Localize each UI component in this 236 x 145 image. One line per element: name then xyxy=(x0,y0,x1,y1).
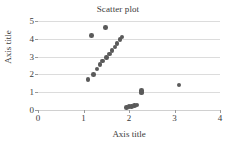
data-point xyxy=(139,88,144,93)
y-tick-label: 2 xyxy=(30,70,39,79)
data-point xyxy=(86,77,91,82)
y-axis-title: Axis title xyxy=(3,15,13,79)
x-tick-label: 3 xyxy=(172,113,177,123)
x-axis-title: Axis title xyxy=(38,129,220,140)
data-point xyxy=(135,103,140,108)
plot-area: 012345 01234 xyxy=(38,21,220,110)
gridline-y xyxy=(38,57,220,58)
y-tick-label: 1 xyxy=(30,88,39,97)
gridline-y xyxy=(38,39,220,40)
y-tick-label: 4 xyxy=(30,34,39,43)
x-tick-label: 4 xyxy=(218,113,223,123)
x-tick-label: 2 xyxy=(127,113,132,123)
gridline-y xyxy=(38,21,220,22)
data-point xyxy=(89,33,94,38)
scatter-chart: Scatter plot Axis title 012345 01234 Axi… xyxy=(0,0,236,145)
x-tick-label: 0 xyxy=(36,113,41,123)
y-tick-label: 5 xyxy=(30,17,39,26)
gridline-y xyxy=(38,92,220,93)
chart-title: Scatter plot xyxy=(0,4,236,15)
x-tick-label: 1 xyxy=(81,113,86,123)
data-point xyxy=(177,83,182,88)
gridline-y xyxy=(38,74,220,75)
data-point xyxy=(103,25,108,30)
data-point xyxy=(91,72,96,77)
y-tick-label: 3 xyxy=(30,52,39,61)
data-point xyxy=(95,67,100,72)
